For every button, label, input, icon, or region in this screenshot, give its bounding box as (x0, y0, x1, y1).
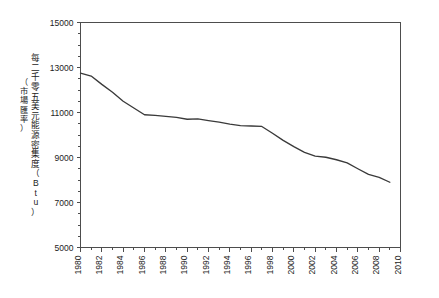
x-axis-tick-label: 2004 (329, 255, 339, 274)
y-axis-title: 每二千零五美元能源密集度（Btu） (31, 52, 40, 217)
plot-frame (81, 23, 401, 248)
y-axis-title-group: 每二千零五美元能源密集度（Btu） （市場匯率） (20, 52, 41, 217)
x-axis-tick-label: 2010 (393, 255, 403, 274)
x-axis-tick-labels: 1980198219841986198819901992199419961998… (73, 255, 403, 274)
x-axis-tick-label: 1982 (94, 255, 104, 274)
x-axis-tick-label: 1992 (201, 255, 211, 274)
x-axis-tick-label: 1980 (73, 255, 83, 274)
x-axis-tick-label: 1988 (158, 255, 168, 274)
y-axis-tick-label: 7000 (55, 198, 74, 208)
data-series-line (81, 73, 390, 182)
x-axis-tick-label: 1984 (115, 255, 125, 274)
y-axis-tick-label: 9000 (55, 153, 74, 163)
x-axis-tick-label: 2008 (371, 255, 381, 274)
x-axis-tick-label: 1998 (265, 255, 275, 274)
y-axis-tick-marks (77, 23, 81, 248)
x-axis-tick-marks (81, 248, 401, 252)
y-axis-title-sub: （市場匯率） (20, 78, 28, 133)
x-axis-tick-label: 2006 (350, 255, 360, 274)
energy-intensity-line-chart: 每二千零五美元能源密集度（Btu） （市場匯率） 500070009000110… (0, 0, 439, 298)
x-axis-tick-label: 2002 (307, 255, 317, 274)
x-axis-tick-label: 2000 (286, 255, 296, 274)
x-axis-tick-label: 1986 (137, 255, 147, 274)
x-axis-tick-label: 1996 (243, 255, 253, 274)
chart-canvas: 每二千零五美元能源密集度（Btu） （市場匯率） 500070009000110… (0, 0, 439, 298)
y-axis-tick-label: 15000 (50, 18, 74, 28)
y-axis-tick-label: 5000 (55, 243, 74, 253)
x-axis-tick-label: 1990 (179, 255, 189, 274)
x-axis-tick-label: 1994 (222, 255, 232, 274)
y-axis-tick-label: 13000 (50, 63, 74, 73)
y-axis-tick-labels: 500070009000110001300015000 (50, 18, 74, 253)
y-axis-tick-label: 11000 (50, 108, 73, 118)
